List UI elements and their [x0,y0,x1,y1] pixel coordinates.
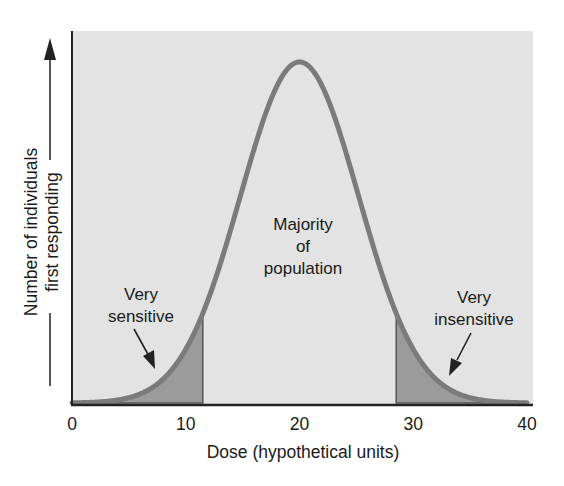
svg-text:Very: Very [457,288,492,307]
svg-text:of: of [296,237,310,256]
x-tick-label: 40 [517,414,537,434]
x-tick-label: 10 [176,414,196,434]
up-arrow-icon [44,38,56,60]
x-tick-label: 0 [67,414,77,434]
x-tick-label: 30 [404,414,424,434]
bell-curve-chart: 010203040 Dose (hypothetical units) Numb… [0,0,564,486]
y-axis-label-line-2: first responding [42,172,62,292]
svg-text:insensitive: insensitive [434,310,513,329]
y-axis-label-line-1: Number of individuals [21,148,41,317]
svg-text:Very: Very [124,285,159,304]
svg-text:Majority: Majority [273,215,333,234]
x-tick-labels: 010203040 [67,414,537,434]
y-axis-label: Number of individuals first responding [21,148,62,317]
svg-text:sensitive: sensitive [108,307,174,326]
x-tick-label: 20 [290,414,310,434]
x-axis-label: Dose (hypothetical units) [207,442,400,462]
svg-text:population: population [264,259,342,278]
